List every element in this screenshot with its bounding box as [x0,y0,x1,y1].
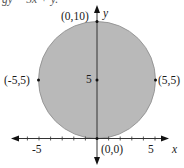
label-x-tick-5: 5 [148,143,154,155]
label-point-top: (0,10) [61,10,89,22]
label-point-right: (5,5) [158,74,180,86]
x-axis-right-arrow-icon [161,136,169,142]
point-top [96,20,99,23]
y-axis-down-arrow-icon [94,157,100,165]
x-axis-left-arrow-icon [11,136,19,142]
point-center [96,79,99,82]
point-left [37,79,40,82]
label-y-axis: y [103,7,108,19]
label-point-left: (-5,5) [4,74,30,86]
y-axis-up-arrow-icon [94,5,100,13]
point-right [154,79,157,82]
point-origin [96,137,99,140]
label-y-tick-5: 5 [86,73,92,85]
label-x-axis: x [172,143,177,155]
label-point-origin: (0,0) [101,143,123,155]
label-x-tick-neg5: -5 [32,143,42,155]
